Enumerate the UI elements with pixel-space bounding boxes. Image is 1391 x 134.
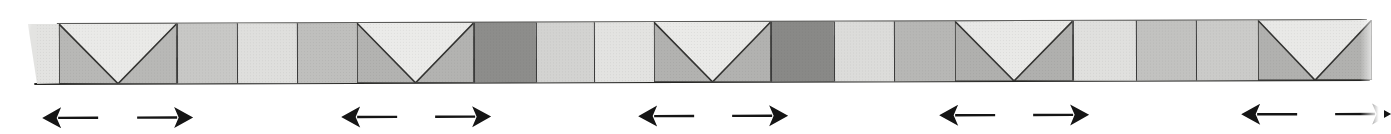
- arrow-right-icon: [136, 105, 193, 129]
- arrow-left-icon: [1241, 102, 1298, 126]
- arrow-right-icon: [731, 104, 788, 128]
- arrow-left-icon: [939, 103, 996, 127]
- translation-arrows: [0, 0, 1383, 134]
- arrow-left-icon: [638, 104, 695, 128]
- scan-edge-fade: [1360, 0, 1384, 132]
- arrow-left-icon: [42, 106, 99, 130]
- scan-tilt-wrapper: [0, 0, 1383, 134]
- arrow-right-icon: [434, 105, 491, 129]
- arrow-left-icon: [341, 105, 398, 129]
- arrow-right-icon: [1032, 103, 1089, 127]
